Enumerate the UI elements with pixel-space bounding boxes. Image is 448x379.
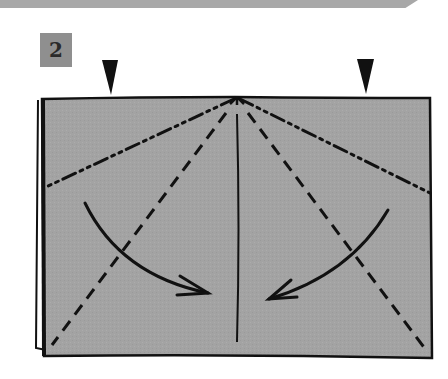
pinch-marker-left-icon <box>102 60 118 95</box>
pinch-marker-right-icon <box>357 59 374 94</box>
fold-diagram <box>0 0 448 379</box>
paper-left-edge-thick <box>43 100 44 356</box>
